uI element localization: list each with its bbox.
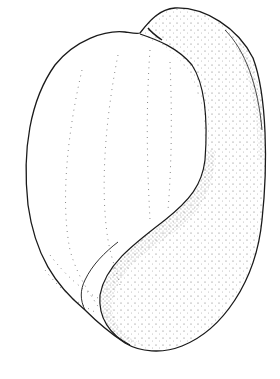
- shell-drawing: [0, 0, 280, 379]
- illustration: [0, 0, 280, 379]
